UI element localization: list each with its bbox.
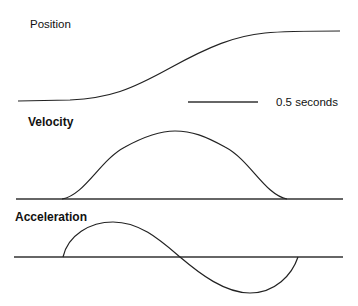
velocity-label: Velocity (28, 115, 74, 129)
acceleration-label: Acceleration (15, 210, 87, 224)
position-label: Position (30, 18, 71, 30)
position-curve (18, 31, 340, 101)
velocity-curve (62, 131, 287, 199)
scale-bar-label: 0.5 seconds (276, 96, 338, 108)
motion-profile-diagram: Position 0.5 seconds Velocity Accelerati… (0, 0, 358, 306)
